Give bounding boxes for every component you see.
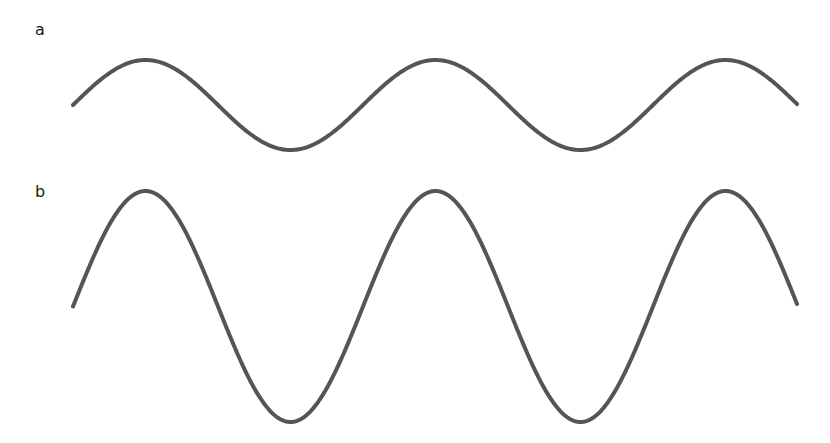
waves-diagram (0, 0, 830, 443)
sine-wave-low-amplitude (73, 60, 797, 150)
sine-wave-high-amplitude (73, 191, 797, 422)
